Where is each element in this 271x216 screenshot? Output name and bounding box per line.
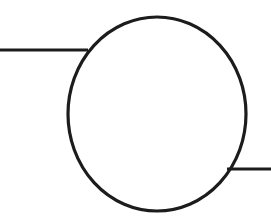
canvas-background — [0, 0, 271, 216]
diagram-svg — [0, 0, 271, 216]
diagram-canvas — [0, 0, 271, 216]
